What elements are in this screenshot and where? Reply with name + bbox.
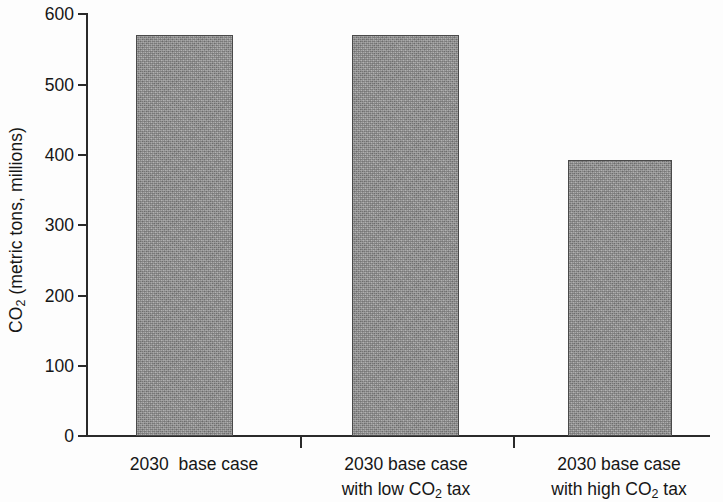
y-tick-label-400: 400 [2, 145, 74, 166]
x-category-label-3-suffix: tax [658, 479, 686, 499]
y-tick-label-600: 600 [2, 4, 74, 25]
plot-area [86, 14, 710, 436]
x-category-label-2: 2030 base case with low CO2 tax [306, 452, 506, 502]
x-category-label-2-line-1: 2030 base case [306, 452, 506, 477]
x-category-label-1-year: 2030 [130, 454, 169, 474]
y-axis-title-prefix: CO [6, 307, 26, 333]
x-axis-separator-tick-1 [300, 437, 302, 448]
y-tick-label-100: 100 [2, 356, 74, 377]
x-category-label-2-subscript: 2 [435, 487, 442, 501]
x-category-label-3-line-1: 2030 base case [519, 452, 719, 477]
bar-2030-base-case-high-co2-tax [568, 160, 672, 436]
y-tick-label-300: 300 [2, 215, 74, 236]
bar-chart-figure: CO2 (metric tons, millions) 0 100 200 30… [0, 0, 723, 502]
y-tick-label-0: 0 [2, 426, 74, 447]
x-category-label-1-line-1: 2030 base case [94, 452, 294, 477]
y-tick-label-200: 200 [2, 286, 74, 307]
y-tick-label-500: 500 [2, 75, 74, 96]
x-category-label-3-prefix: with high CO [551, 479, 651, 499]
bar-2030-base-case-low-co2-tax [352, 35, 459, 436]
x-category-label-2-line-2: with low CO2 tax [306, 477, 506, 502]
x-category-label-3-line-2: with high CO2 tax [519, 477, 719, 502]
x-category-label-2-suffix: tax [442, 479, 470, 499]
x-category-label-2-prefix: with low CO [342, 479, 435, 499]
x-category-label-1: 2030 base case [94, 452, 294, 477]
x-category-label-1-text: base case [178, 454, 258, 474]
bar-2030-base-case [136, 35, 233, 436]
x-axis-separator-tick-2 [513, 437, 515, 448]
x-category-label-3: 2030 base case with high CO2 tax [519, 452, 719, 502]
